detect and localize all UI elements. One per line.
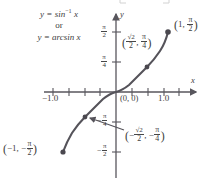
equation-line-2: or <box>18 21 100 30</box>
equation-line-3: y = arcsin x <box>18 33 100 42</box>
fraction-pi-2: π 2 <box>102 143 108 158</box>
fraction-sqrt2-2: √2 2 <box>126 33 135 50</box>
marker-point-top-right <box>165 29 171 35</box>
y-tick-label-neg-pi-over-2: − π 2 <box>97 143 108 158</box>
x-value: 1 <box>178 19 183 29</box>
y-tick-label-pi-over-2: π 2 <box>101 24 107 39</box>
point-label-upper: ( √2 2 , π 4 ) <box>122 33 151 50</box>
x-axis-label: x <box>191 76 195 85</box>
close-paren: ) <box>194 18 198 32</box>
equation-line-1: y = sin−1 x <box>18 8 100 19</box>
origin-point-label: (0, 0) <box>120 94 138 103</box>
fraction-pi-2: π 2 <box>27 140 33 157</box>
fraction-sqrt2-2: √2 2 <box>134 126 143 143</box>
x-value: −1 <box>7 143 17 153</box>
fraction-pi-2: π 2 <box>187 16 193 33</box>
sqrt-icon: √2 <box>127 33 134 41</box>
marker-point-bottom-left <box>60 149 65 154</box>
minus-sign: − <box>97 116 102 125</box>
fraction-pi-4: π 4 <box>101 54 107 69</box>
point-label-lower: (− √2 2 , − π 4 ) <box>125 126 165 143</box>
fraction-pi-2: π 2 <box>101 24 107 39</box>
minus-sign: − <box>129 130 134 140</box>
fraction-pi-4: π 4 <box>102 113 108 128</box>
y-axis-label: y <box>120 10 124 19</box>
point-label-top-right: (1, π 2 ) <box>174 16 198 33</box>
equation-caption: y = sin−1 x or y = arcsin x <box>18 8 100 44</box>
equation-line-1-exponent: −1 <box>65 8 72 14</box>
sqrt-icon: √2 <box>135 126 142 134</box>
equation-line-1-prefix: y = sin <box>40 9 65 19</box>
inverse-sine-graph-figure: y = sin−1 x or y = arcsin x y x −1.0 1.0… <box>0 0 213 192</box>
fraction-pi-4: π 4 <box>154 126 160 143</box>
cropped-top-edge-marks <box>120 0 169 3</box>
close-paren: ) <box>33 142 37 156</box>
equation-line-1-suffix: x <box>74 9 78 19</box>
x-tick-label-neg-1: −1.0 <box>42 94 58 103</box>
marker-point-lower <box>83 115 88 120</box>
marker-point-upper <box>145 65 150 70</box>
x-tick-label-pos-1: 1.0 <box>158 94 169 103</box>
y-tick-label-pi-over-4: π 4 <box>101 54 107 69</box>
close-paren: ) <box>161 129 165 143</box>
minus-sign: − <box>21 143 26 153</box>
point-label-bottom-left: (−1, − π 2 ) <box>3 140 37 157</box>
y-tick-label-neg-pi-over-4: − π 4 <box>97 113 108 128</box>
open-paren: ( <box>122 36 126 50</box>
minus-sign: − <box>97 146 102 155</box>
minus-sign: − <box>149 130 154 140</box>
close-paren: ) <box>147 36 151 50</box>
